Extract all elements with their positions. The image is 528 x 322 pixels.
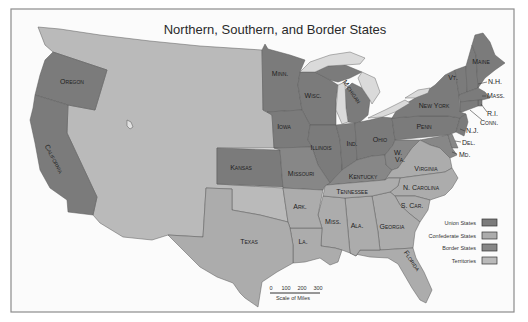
label-minnesota: Minn.	[272, 70, 288, 77]
scale-tick-label: 0	[269, 285, 272, 291]
label-ohio: Ohio	[373, 136, 387, 143]
legend-swatch	[482, 257, 497, 264]
legend-swatch	[482, 244, 497, 251]
legend-label: Territories	[452, 258, 476, 264]
map: Northern, Southern, and Border States	[0, 0, 528, 322]
label-south-carolina: S. Car.	[401, 202, 424, 209]
label-iowa: Iowa	[277, 123, 291, 130]
label-wisconsin: Wisc.	[305, 92, 322, 99]
scale-caption: Scale of Miles	[276, 295, 310, 301]
label-georgia: Georgia	[380, 223, 406, 230]
label-kansas: Kansas	[230, 164, 252, 171]
label-arkansas: Ark.	[293, 203, 307, 210]
label-west-virginia-line1: W.	[394, 149, 402, 156]
label-kentucky: Kentucky	[349, 173, 378, 180]
label-maryland: Md.	[459, 151, 470, 158]
label-rhode-island: R.I.	[487, 110, 498, 117]
label-mississippi: Miss.	[325, 218, 341, 225]
label-alabama: Ala.	[351, 222, 364, 229]
label-massachusetts: Mass.	[487, 92, 505, 99]
scale-tick-label: 200	[297, 285, 306, 291]
label-new-jersey: N.J.	[466, 127, 479, 134]
legend-label: Border States	[442, 245, 476, 251]
label-maine: Maine	[472, 58, 490, 65]
scale-tick-label: 300	[313, 285, 322, 291]
label-vermont: Vt.	[448, 74, 458, 81]
label-new-york: New York	[419, 102, 450, 109]
label-illinois: Illinois	[310, 144, 332, 151]
legend-swatch	[482, 219, 497, 226]
label-missouri: Missouri	[288, 170, 314, 177]
label-delaware: Del.	[462, 139, 475, 146]
state-rhode-island	[478, 100, 482, 106]
label-virginia: Virginia	[414, 165, 438, 172]
label-indiana: Ind.	[346, 140, 357, 147]
label-tennessee: Tennessee	[336, 188, 368, 195]
label-north-carolina: N. Carolina	[403, 184, 440, 191]
label-texas: Texas	[240, 238, 258, 245]
legend-item-confederate: Confederate States	[429, 232, 497, 239]
label-pennsylvania: Penn	[416, 123, 432, 130]
legend-label: Union States	[445, 220, 477, 226]
scale-tick-label: 100	[281, 285, 290, 291]
label-new-hampshire: N.H.	[488, 78, 502, 85]
legend-item-union: Union States	[445, 219, 498, 226]
legend-label: Confederate States	[429, 233, 477, 239]
label-louisiana: La.	[298, 238, 307, 245]
legend-item-border: Border States	[442, 244, 497, 251]
label-oregon: Oregon	[60, 78, 84, 85]
label-west-virginia-line2: Va.	[395, 156, 405, 163]
map-title: Northern, Southern, and Border States	[164, 22, 387, 37]
legend-swatch	[482, 232, 497, 239]
label-connecticut: Conn.	[480, 119, 498, 126]
legend-item-territories: Territories	[452, 257, 497, 264]
